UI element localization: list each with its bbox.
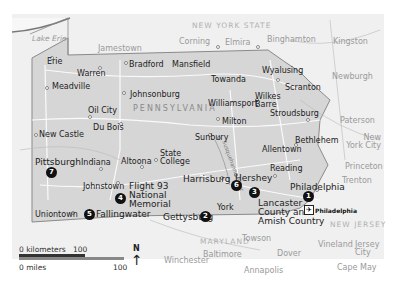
city-bethlehem: Bethlehem [295, 137, 339, 145]
city-oil-city: Oil City [88, 107, 117, 115]
city-allentown: Allentown [262, 146, 302, 154]
city-dover: Dover [277, 250, 301, 258]
city-harrisburg: Harrisburg [183, 175, 230, 184]
scale-mi-bar [19, 257, 124, 260]
city-wyalusing: Wyalusing [262, 67, 303, 75]
city-kingston: Kingston [333, 38, 368, 46]
attraction-marker-6[interactable]: 6 [231, 180, 242, 191]
city-jamestown: Jamestown [98, 45, 142, 53]
city-new-york: New York City [345, 134, 381, 150]
attraction-marker-4[interactable]: 4 [115, 193, 126, 204]
scale-km-value: 100 [73, 245, 87, 254]
city-williamsport: Williamsport [208, 100, 258, 108]
airplane-icon: ✈ [304, 205, 314, 215]
pennsylvania-label: PENNSYLVANIA [133, 105, 217, 113]
city-sunbury: Sunbury [195, 134, 228, 142]
city-paterson: Paterson [340, 117, 375, 125]
city-state-college: State College [160, 150, 190, 166]
city-vineland: Vineland [318, 241, 353, 249]
city-mansfield: Mansfield [172, 61, 210, 69]
city-towson: Towson [242, 235, 271, 243]
city-erie: Erie [47, 58, 63, 66]
city-jersey-city: Jersey City [355, 241, 377, 257]
lake-erie-label: Lake Erie [32, 35, 67, 43]
city-uniontown: Uniontown [35, 211, 78, 219]
city-bradford: Bradford [129, 61, 164, 69]
city-towanda: Towanda [211, 76, 246, 84]
city-milton: Milton [222, 118, 246, 126]
map-canvas: Lake Erie NEW YORK STATE PENNSYLVANIA MA… [0, 0, 399, 291]
attraction-marker-7[interactable]: 7 [46, 167, 57, 178]
city-trenton: Trenton [342, 177, 372, 185]
city-cape-may: Cape May [337, 264, 377, 272]
city-johnstown: Johnstown [83, 183, 124, 191]
city-pittsburgh: Pittsburgh [35, 158, 81, 167]
city-indiana: Indiana [81, 159, 111, 167]
city-york: York [217, 204, 234, 212]
airport-label: Philadelphia [315, 207, 357, 214]
scale-mi-value: 100 [113, 263, 127, 272]
scale-km-label: 0 kilometers [19, 245, 66, 254]
city-philadelphia: Philadelphia [290, 183, 345, 192]
city-johnsonburg: Johnsonburg [130, 91, 180, 99]
city-reading: Reading [270, 165, 302, 173]
city-princeton: Princeton [345, 163, 383, 171]
attraction-label-fallingwater: Fallingwater [96, 210, 150, 219]
attraction-marker-5[interactable]: 5 [84, 209, 95, 220]
city-corning: Corning [179, 38, 210, 46]
city-wilkes-barre: Wilkes Barre [255, 93, 275, 109]
city-du-bois: Du Bois [93, 124, 124, 132]
scale-mi-label: 0 miles [19, 263, 46, 272]
city-stroudsburg: Stroudsburg [270, 110, 319, 118]
city-warren: Warren [77, 70, 106, 78]
attraction-marker-2[interactable]: 2 [200, 211, 211, 222]
city-binghamton: Binghamton [267, 36, 316, 44]
city-scranton: Scranton [285, 84, 321, 92]
city-newburgh: Newburgh [332, 73, 373, 81]
north-arrow-icon: ↑ [131, 253, 143, 267]
new-jersey-label: NEW JERSEY [330, 221, 386, 229]
city-altoona: Altoona [121, 158, 152, 166]
city-annapolis: Annapolis [244, 267, 283, 275]
city-meadville: Meadville [52, 83, 90, 91]
new-york-state-label: NEW YORK STATE [192, 22, 271, 30]
city-winchester: Winchester [164, 257, 209, 265]
attraction-marker-3[interactable]: 3 [249, 187, 260, 198]
attraction-label-flight93: Flight 93 National Memorial [129, 182, 171, 209]
city-new-castle: New Castle [39, 131, 84, 139]
city-elmira: Elmira [225, 39, 250, 47]
